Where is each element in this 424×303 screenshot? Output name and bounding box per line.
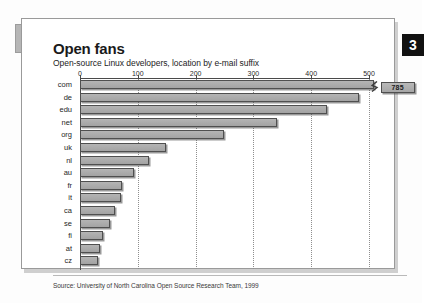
bar-uk — [80, 143, 166, 152]
y-tick-label-ca: ca — [26, 205, 72, 217]
bar-org — [80, 130, 224, 139]
bar-row-se: se — [22, 218, 382, 230]
bar-row-de: de — [22, 92, 382, 104]
bar-row-at: at — [22, 243, 382, 255]
y-tick-label-net: net — [26, 117, 72, 129]
bar-cz — [80, 256, 98, 265]
bar-row-net: net — [22, 117, 382, 129]
y-tick-label-de: de — [26, 92, 72, 104]
bar-row-uk: uk — [22, 142, 382, 154]
bar-se — [80, 219, 110, 228]
y-tick-label-at: at — [26, 243, 72, 255]
y-tick-label-fi: fi — [26, 230, 72, 242]
value-callout-785: 785 — [381, 82, 415, 93]
bar-it — [80, 193, 121, 202]
y-tick-label-uk: uk — [26, 142, 72, 154]
bar-ca — [80, 206, 115, 215]
footer-divider — [53, 275, 407, 276]
y-tick-label-com: com — [26, 79, 72, 91]
axis-break-icon — [371, 81, 380, 92]
bar-row-fr: fr — [22, 180, 382, 192]
bar-row-edu: edu — [22, 104, 382, 116]
y-tick-label-se: se — [26, 218, 72, 230]
bar-net — [80, 118, 277, 127]
bar-fi — [80, 231, 103, 240]
bar-fr — [80, 181, 122, 190]
source-note: Source: University of North Carolina Ope… — [53, 282, 259, 289]
bar-row-cz: cz — [22, 255, 382, 267]
bar-row-it: it — [22, 192, 382, 204]
bar-de — [80, 93, 359, 102]
y-tick-label-it: it — [26, 192, 72, 204]
bar-row-au: au — [22, 167, 382, 179]
bar-row-fi: fi — [22, 230, 382, 242]
y-tick-label-au: au — [26, 167, 72, 179]
bar-at — [80, 244, 100, 253]
panel-number-badge: 3 — [402, 34, 424, 56]
chart-panel: 3 Open fans Open-source Linux developers… — [21, 18, 395, 269]
bar-row-nl: nl — [22, 155, 382, 167]
bar-edu — [80, 105, 327, 114]
bar-au — [80, 168, 134, 177]
y-tick-label-nl: nl — [26, 155, 72, 167]
bar-row-com: com — [22, 79, 382, 91]
y-tick-label-fr: fr — [26, 180, 72, 192]
y-tick-label-edu: edu — [26, 104, 72, 116]
y-tick-label-cz: cz — [26, 255, 72, 267]
y-tick-label-org: org — [26, 129, 72, 141]
bar-nl — [80, 156, 149, 165]
bar-row-org: org — [22, 129, 382, 141]
page-subtitle: Open-source Linux developers, location b… — [53, 59, 259, 68]
bar-row-ca: ca — [22, 205, 382, 217]
bar-com — [80, 80, 374, 89]
page-title: Open fans — [53, 41, 125, 58]
